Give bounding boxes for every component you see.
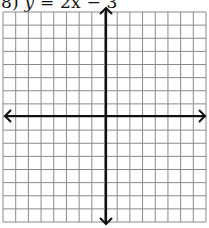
axes xyxy=(5,8,205,224)
coordinate-grid xyxy=(0,0,209,228)
